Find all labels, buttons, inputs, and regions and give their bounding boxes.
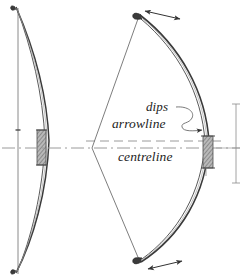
left-upper-nock [11,6,16,10]
top-limb-double-arrow [145,11,180,19]
bottom-limb-double-arrow [148,261,182,269]
right-limb-belly [141,19,205,259]
figure-canvas: dips arrowline centreline [0,0,242,280]
right-bow-view [92,13,215,263]
right-lower-nock [133,258,142,264]
label-arrowline: arrowline [112,117,166,131]
left-grip [37,130,46,165]
bow-diagram-svg [0,0,242,280]
right-upper-nock [133,13,142,19]
right-limb-back [140,15,209,262]
right-bowstring [92,16,140,262]
right-limb-core [141,17,208,261]
label-dips: dips [146,100,168,113]
annotation-arrows [145,11,240,269]
left-bow-view [11,6,49,274]
dips-leader-line [176,107,202,131]
left-lower-nock [11,270,16,274]
right-grip [203,136,213,168]
label-centreline: centreline [118,150,172,164]
